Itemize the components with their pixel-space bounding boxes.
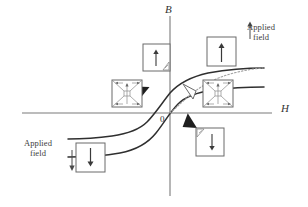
box-up-partial (143, 44, 170, 71)
applied-field-up-label: Applied field (247, 22, 299, 42)
applied-field-down-label: Applied field (8, 138, 68, 158)
box-down-partial (196, 128, 224, 156)
applied-field-up-line1: Applied (247, 22, 275, 32)
applied-field-up-line2: field (247, 32, 269, 42)
origin-label: 0 (160, 114, 165, 124)
lower-branch-arrowhead (181, 112, 197, 130)
applied-field-down-line2: field (30, 148, 46, 158)
box-down-saturated (76, 143, 105, 172)
applied-field-down-line1: Applied (24, 138, 52, 148)
upper-branch-curve (68, 68, 264, 139)
b-axis-label: B (165, 3, 172, 15)
box-domains-right (203, 80, 233, 107)
applied-field-down-arrow (69, 150, 74, 171)
box-domains-left (112, 80, 142, 107)
hysteresis-figure: B H 0 Applied field Applied field (0, 0, 308, 207)
box-up-saturated (207, 37, 236, 66)
h-axis-label: H (281, 102, 289, 114)
